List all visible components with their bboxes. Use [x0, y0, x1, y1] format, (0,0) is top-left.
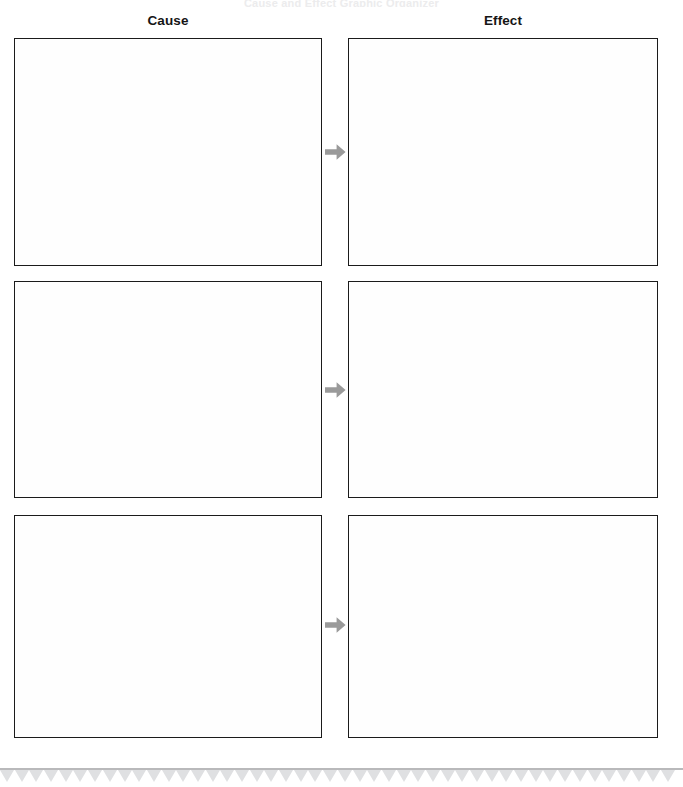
footer-triangle [0, 770, 14, 782]
column-heading-cause: Cause [14, 13, 322, 29]
footer-triangle [162, 770, 176, 782]
cause-box-2[interactable] [14, 281, 322, 498]
footer-triangle [191, 770, 205, 782]
footer-triangle [29, 770, 43, 782]
footer-triangle [294, 770, 308, 782]
footer-triangle [588, 770, 602, 782]
footer-triangle [220, 770, 234, 782]
footer-triangle [147, 770, 161, 782]
footer-triangle-border [0, 770, 683, 787]
footer-triangle [617, 770, 631, 782]
footer-triangle [470, 770, 484, 782]
footer-triangle [279, 770, 293, 782]
footer-triangle [235, 770, 249, 782]
footer-triangle [206, 770, 220, 782]
footer-triangle [397, 770, 411, 782]
arrow-right-icon-1 [325, 143, 346, 161]
clipped-title-text: Cause and Effect Graphic Organizer [0, 0, 683, 7]
footer-triangle [382, 770, 396, 782]
footer-triangle [118, 770, 132, 782]
footer-triangle [411, 770, 425, 782]
footer-triangle [323, 770, 337, 782]
footer-triangle [59, 770, 73, 782]
footer-triangle [455, 770, 469, 782]
effect-box-3[interactable] [348, 515, 658, 738]
footer-triangle [338, 770, 352, 782]
footer-triangle [646, 770, 660, 782]
footer-triangle [529, 770, 543, 782]
footer-triangle [499, 770, 513, 782]
footer-triangle [632, 770, 646, 782]
worksheet-page: Cause and Effect Graphic Organizer Cause… [0, 0, 683, 787]
footer-triangle [367, 770, 381, 782]
footer-triangle [308, 770, 322, 782]
footer-triangle [44, 770, 58, 782]
footer-triangle [250, 770, 264, 782]
cause-box-3[interactable] [14, 515, 322, 738]
effect-box-1[interactable] [348, 38, 658, 266]
footer-triangle [132, 770, 146, 782]
arrow-right-icon-3 [325, 616, 346, 634]
footer-triangle [573, 770, 587, 782]
footer-triangle [514, 770, 528, 782]
footer-triangle [543, 770, 557, 782]
cause-box-1[interactable] [14, 38, 322, 266]
footer-triangle [176, 770, 190, 782]
footer-triangle [485, 770, 499, 782]
footer-triangle [73, 770, 87, 782]
footer-triangle [602, 770, 616, 782]
effect-box-2[interactable] [348, 281, 658, 498]
footer-triangle [88, 770, 102, 782]
footer-triangle [441, 770, 455, 782]
arrow-right-icon-2 [325, 381, 346, 399]
column-heading-effect: Effect [348, 13, 658, 29]
footer-triangle [661, 770, 675, 782]
footer-triangle [103, 770, 117, 782]
footer-triangle [15, 770, 29, 782]
footer-triangle [558, 770, 572, 782]
footer-triangle [353, 770, 367, 782]
footer-triangle [426, 770, 440, 782]
footer-triangle [264, 770, 278, 782]
